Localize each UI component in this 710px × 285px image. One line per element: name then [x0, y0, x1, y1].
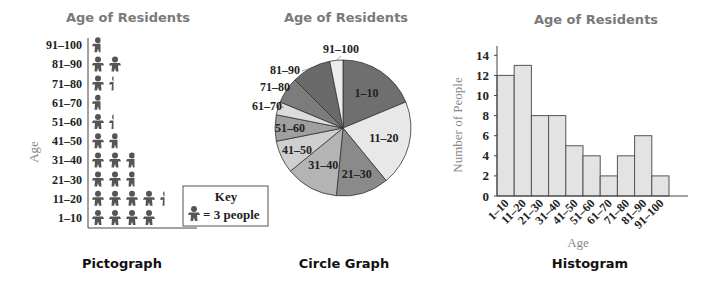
person-icon: [126, 210, 138, 225]
pictograph-category-label: 1–10: [58, 211, 82, 225]
histogram-bar: [583, 156, 600, 196]
histogram-title: Age of Residents: [534, 12, 658, 27]
histogram-bar: [566, 146, 583, 196]
circle-graph: Age of Residents 1–1011–2021–3031–4041–5…: [252, 10, 411, 271]
person-icon: [143, 191, 155, 206]
pie-slice-label: 61–70: [252, 99, 282, 113]
pictograph-category-label: 21–30: [52, 173, 82, 187]
person-icon: [126, 152, 138, 167]
person-icon: [92, 76, 104, 91]
pictograph-category-label: 11–20: [53, 192, 82, 206]
histogram-y-tick-label: 0: [483, 189, 490, 204]
pictograph-row: 91–100: [46, 37, 104, 52]
histogram-y-tick-label: 10: [476, 88, 489, 103]
histogram-bar: [600, 176, 617, 196]
pie-slice-label: 91–100: [323, 42, 359, 56]
pictograph-category-label: 71–80: [52, 77, 82, 91]
person-icon: [126, 191, 138, 206]
person-icon: [92, 37, 104, 52]
pictograph-category-label: 91–100: [46, 38, 82, 52]
histogram-bar: [617, 156, 634, 196]
person-icon: [109, 172, 121, 187]
key-text: = 3 people: [203, 207, 260, 222]
pie-slice-label: 81–90: [270, 63, 300, 77]
pictograph-row: 31–40: [52, 152, 138, 167]
histogram-x-axis-label: Age: [567, 235, 589, 250]
histogram-chart: Age of Residents Number of People 024681…: [450, 12, 688, 271]
pie-slice-label: 71–80: [260, 80, 290, 94]
pictograph-key: Key = 3 people: [183, 186, 268, 226]
pictograph-category-label: 41–50: [52, 134, 82, 148]
histogram-y-tick-label: 12: [476, 68, 489, 83]
key-title: Key: [215, 189, 238, 204]
person-icon: [92, 56, 104, 71]
pictograph-row: 41–50: [52, 133, 121, 148]
person-icon: [109, 114, 121, 129]
pictograph-row: 11–20: [53, 191, 172, 206]
histogram-caption: Histogram: [552, 256, 628, 271]
person-icon: [160, 191, 172, 206]
person-icon: [109, 191, 121, 206]
histogram-y-tick-label: 4: [483, 148, 490, 163]
person-icon: [109, 152, 121, 167]
histogram-y-tick-label: 2: [483, 168, 490, 183]
histogram-bar: [497, 75, 514, 196]
pictograph-row: 1–10: [58, 210, 155, 225]
pie-slice-label: 21–30: [342, 167, 372, 181]
histogram-bar: [635, 136, 652, 196]
histogram-y-axis-label: Number of People: [450, 77, 465, 173]
pie-slice-label: 41–50: [282, 143, 312, 157]
pictograph-row: 61–70: [52, 95, 104, 110]
pictograph-title: Age of Residents: [66, 10, 190, 25]
pictograph-category-label: 61–70: [52, 96, 82, 110]
histogram-y-tick-label: 6: [483, 128, 490, 143]
circle-graph-title: Age of Residents: [284, 10, 408, 25]
person-icon: [126, 172, 138, 187]
person-icon: [109, 210, 121, 225]
histogram-y-tick-label: 14: [476, 48, 490, 63]
person-icon: [109, 133, 121, 148]
histogram-bar: [652, 176, 669, 196]
circle-graph-caption: Circle Graph: [299, 256, 389, 271]
pictograph-chart: Age of Residents Age 1–1011–2021–3031–40…: [26, 10, 268, 271]
person-icon: [92, 210, 104, 225]
pictograph-row: 51–60: [52, 114, 121, 129]
person-icon: [92, 133, 104, 148]
person-icon: [109, 76, 121, 91]
histogram-y-tick-label: 8: [483, 108, 490, 123]
histogram-bar: [514, 65, 531, 196]
pie-slice-label: 11–20: [369, 131, 398, 145]
histogram-bar: [531, 116, 548, 196]
pictograph-row: 71–80: [52, 76, 121, 91]
pictograph-category-label: 31–40: [52, 153, 82, 167]
person-icon: [92, 152, 104, 167]
person-icon: [92, 172, 104, 187]
pie-slice-label: 1–10: [354, 86, 378, 100]
pictograph-category-label: 51–60: [52, 115, 82, 129]
histogram-bar: [549, 116, 566, 196]
person-icon: [143, 210, 155, 225]
person-icon: [109, 56, 121, 71]
pictograph-category-label: 81–90: [52, 57, 82, 71]
person-icon: [92, 95, 104, 110]
pie-slice-label: 51–60: [275, 121, 305, 135]
pie-slice-label: 31–40: [308, 158, 338, 172]
pictograph-row: 81–90: [52, 56, 121, 71]
pictograph-caption: Pictograph: [82, 256, 162, 271]
person-icon: [92, 114, 104, 129]
person-icon: [92, 191, 104, 206]
pictograph-y-axis-label: Age: [26, 141, 41, 163]
charts-canvas: Age of Residents Age 1–1011–2021–3031–40…: [0, 0, 710, 285]
pictograph-row: 21–30: [52, 172, 138, 187]
